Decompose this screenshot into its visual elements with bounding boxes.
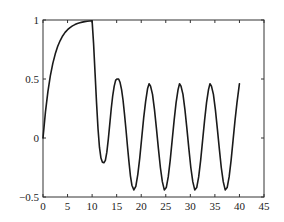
x-tick-label: 25 xyxy=(160,200,172,212)
plot-border xyxy=(43,20,264,197)
x-tick-label: 30 xyxy=(185,200,197,212)
x-tick-label: 5 xyxy=(65,200,71,212)
y-tick-label: 1 xyxy=(34,14,40,26)
y-axis-ticks: −0.500.51 xyxy=(19,14,264,203)
x-tick-label: 15 xyxy=(111,200,123,212)
x-tick-label: 10 xyxy=(87,200,99,212)
x-tick-label: 0 xyxy=(40,200,46,212)
y-tick-label: 0 xyxy=(34,132,40,144)
x-tick-label: 45 xyxy=(259,200,271,212)
x-tick-label: 20 xyxy=(136,200,148,212)
chart-canvas: 051015202530354045 −0.500.51 xyxy=(0,0,284,222)
data-line xyxy=(43,21,239,190)
line-chart: 051015202530354045 −0.500.51 xyxy=(0,0,284,222)
y-tick-label: −0.5 xyxy=(19,191,39,203)
x-tick-label: 35 xyxy=(209,200,221,212)
y-tick-label: 0.5 xyxy=(25,73,39,85)
x-tick-label: 40 xyxy=(234,200,246,212)
axes-frame xyxy=(43,20,264,197)
